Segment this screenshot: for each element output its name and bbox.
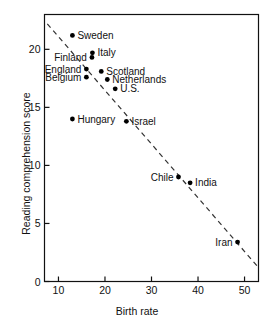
x-tick-label: 40 [192, 284, 204, 296]
data-point-label: Finland [54, 52, 87, 63]
x-tick-label: 20 [99, 284, 111, 296]
data-point-marker [113, 86, 118, 91]
scatter-chart-figure: 102030405005101520SwedenItalyFinlandEngl… [0, 0, 274, 327]
data-point-label: Italy [97, 47, 115, 58]
data-point-label: Belgium [45, 72, 81, 83]
data-point-marker [176, 175, 181, 180]
data-point-marker [90, 55, 95, 60]
data-point-marker [188, 180, 193, 185]
y-axis-title-wrapper: Reading comprehension score [0, 0, 16, 327]
data-point-label: India [195, 177, 217, 188]
data-point-marker [124, 119, 129, 124]
data-point-marker [70, 117, 75, 122]
data-point-marker [99, 69, 104, 74]
x-axis-title: Birth rate [0, 305, 274, 317]
y-tick-label: 5 [35, 217, 41, 229]
data-point-marker [235, 240, 240, 245]
x-tick-label: 50 [239, 284, 251, 296]
data-point-marker [105, 77, 110, 82]
data-point-label: Iran [215, 237, 232, 248]
data-point-marker [70, 33, 75, 38]
scatter-plot-canvas: 102030405005101520SwedenItalyFinlandEngl… [0, 0, 274, 327]
y-axis-title: Reading comprehension score [18, 0, 34, 327]
data-point-label: Chile [151, 172, 174, 183]
data-point-label: Israel [131, 116, 155, 127]
data-point-label: U.S. [120, 83, 139, 94]
data-point-label: Sweden [77, 30, 113, 41]
data-point-marker [90, 50, 95, 55]
y-tick-label: 0 [35, 276, 41, 288]
x-tick-label: 30 [146, 284, 158, 296]
x-tick-label: 10 [53, 284, 65, 296]
data-point-marker [84, 75, 89, 80]
data-point-label: Hungary [77, 114, 115, 125]
data-point-marker [84, 67, 89, 72]
